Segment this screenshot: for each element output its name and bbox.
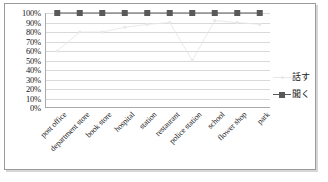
chart-frame: 100%90%80%70%60%50%40%30%20%10%0% post o… xyxy=(4,3,316,170)
y-axis-tick-label: 10% xyxy=(26,94,41,103)
chart-legend: 話す 聞く xyxy=(273,70,317,104)
legend-label-speak: 話す xyxy=(291,72,310,83)
series-marker xyxy=(78,30,81,33)
x-axis-tick-labels: post officedepartment storebook storehos… xyxy=(45,108,270,178)
y-axis-tick-label: 40% xyxy=(26,66,41,75)
series-marker xyxy=(212,10,218,16)
series-marker xyxy=(101,30,104,33)
series-marker xyxy=(213,19,216,22)
series-marker xyxy=(191,59,194,62)
series-marker xyxy=(99,10,105,16)
series-marker xyxy=(189,10,195,16)
legend-marker-speak xyxy=(273,72,291,83)
series-marker xyxy=(77,10,83,16)
y-axis-tick-label: 30% xyxy=(26,75,41,84)
series-marker xyxy=(257,10,263,16)
legend-marker-listen xyxy=(273,89,291,100)
chart-area: 100%90%80%70%60%50%40%30%20%10%0% post o… xyxy=(5,4,315,169)
y-axis-tick-label: 70% xyxy=(26,37,41,46)
y-axis-tick-label: 60% xyxy=(26,47,41,56)
series-svg xyxy=(46,13,271,108)
series-marker xyxy=(168,21,171,24)
series-layer xyxy=(46,13,270,107)
y-axis-tick-label: 80% xyxy=(26,28,41,37)
y-axis-tick-label: 100% xyxy=(22,9,41,18)
series-marker xyxy=(146,23,149,26)
legend-item-speak[interactable]: 話す xyxy=(273,70,317,85)
y-axis-tick-label: 20% xyxy=(26,85,41,94)
series-marker xyxy=(56,49,59,52)
x-axis-tick-label: hospital xyxy=(112,110,136,134)
series-marker xyxy=(123,26,126,29)
series-marker xyxy=(234,10,240,16)
x-axis-tick-label: park xyxy=(255,110,271,126)
series-marker xyxy=(258,23,261,26)
plot-area xyxy=(45,13,270,108)
legend-label-listen: 聞く xyxy=(291,89,310,100)
series-marker xyxy=(236,21,239,24)
series-marker xyxy=(144,10,150,16)
series-line xyxy=(57,21,260,61)
series-marker xyxy=(122,10,128,16)
series-marker xyxy=(54,10,60,16)
series-marker xyxy=(167,10,173,16)
y-axis-tick-label: 50% xyxy=(26,56,41,65)
y-axis-tick-labels: 100%90%80%70%60%50%40%30%20%10%0% xyxy=(7,13,43,108)
y-axis-tick-label: 0% xyxy=(30,104,41,113)
legend-item-listen[interactable]: 聞く xyxy=(273,87,317,102)
y-axis-tick-label: 90% xyxy=(26,18,41,27)
